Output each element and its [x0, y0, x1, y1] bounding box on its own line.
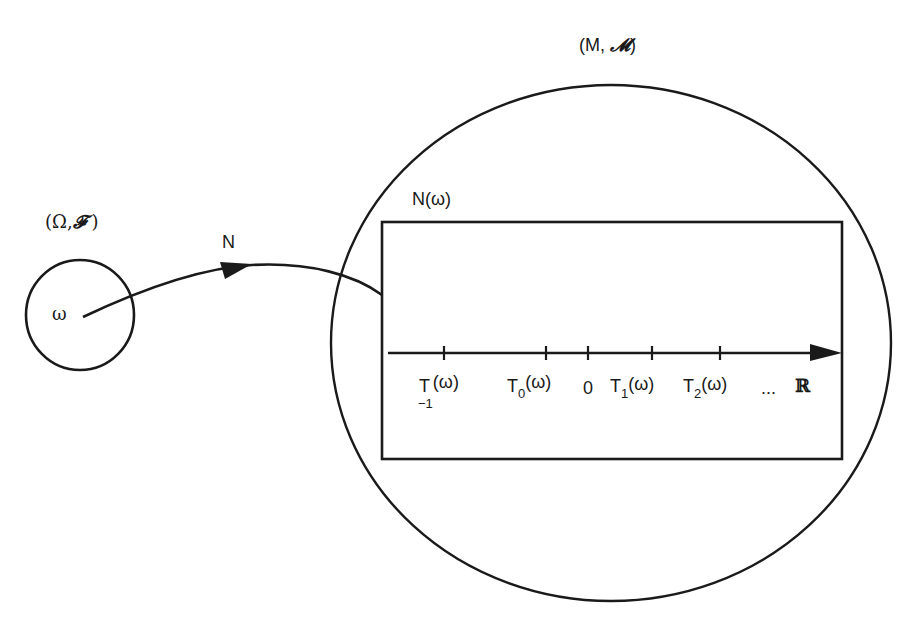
image-box-label: N(ω)	[412, 190, 451, 208]
tick-arg: (ω)	[701, 374, 727, 394]
image-box-rect	[382, 222, 842, 459]
tick-subscript: −1	[418, 396, 433, 411]
real-line-label: ℝ	[795, 377, 810, 395]
tick-label-t0: T0(ω)	[507, 377, 551, 395]
tick-base: T	[610, 376, 621, 396]
tick-label-zero: 0	[583, 379, 593, 397]
tick-arg: (ω)	[628, 374, 654, 394]
tick-base: T	[507, 376, 518, 396]
m-symbol: M	[585, 35, 600, 55]
point-process-diagram: (M, 𝓜) (Ω,𝓕 ) ω N N(ω) T−1(ω) T0(ω) 0 T1…	[0, 0, 919, 627]
omega-point-label: ω	[52, 305, 67, 323]
omega-space-label: (Ω,𝓕 )	[45, 213, 98, 231]
paren-open: (	[45, 211, 52, 232]
mapping-label: N	[222, 233, 235, 251]
m-space-label: (M, 𝓜)	[579, 36, 636, 54]
diagram-canvas	[0, 0, 919, 627]
paren-close: )	[630, 35, 636, 55]
tick-arg: (ω)	[525, 372, 551, 392]
m-space-circle	[331, 85, 891, 601]
omega-space-circle	[26, 260, 134, 370]
tick-base: T	[683, 376, 694, 396]
tick-arg: (ω)	[433, 372, 459, 392]
omega-symbol: Ω	[52, 211, 67, 232]
mapping-arrowhead-icon	[220, 262, 252, 279]
f-sigma-symbol: 𝓕	[73, 211, 86, 232]
tick-label-t2: T2(ω)	[683, 377, 727, 395]
tick-label-t1: T1(ω)	[610, 377, 654, 395]
real-line-arrowhead-icon	[810, 344, 842, 361]
paren-close: )	[91, 211, 98, 232]
separator: ,	[600, 35, 605, 55]
tick-label-t-minus1: T−1(ω)	[419, 377, 459, 395]
m-sigma-symbol: 𝓜	[610, 34, 630, 55]
tick-base: T	[419, 376, 430, 396]
ellipsis: ...	[761, 379, 776, 397]
